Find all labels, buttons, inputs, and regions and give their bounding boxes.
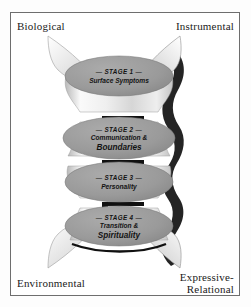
axis-label-environmental: Environmental	[17, 277, 85, 289]
stage-1-line-1: Surface Symptoms	[89, 77, 149, 85]
stage-disc-4[interactable]: — STAGE 4 — Transition & Spirituality	[65, 206, 173, 246]
stage-4-line-2: Spirituality	[98, 231, 141, 240]
stage-disc-2[interactable]: — STAGE 2 — Communication & Boundaries	[63, 117, 175, 159]
stage-4-line-1: Transition &	[100, 222, 139, 229]
stage-disc-3[interactable]: — STAGE 3 — Personality	[65, 162, 173, 202]
stage-spindle-diagram: — STAGE 1 — Surface Symptoms — STAGE 2 —…	[28, 30, 223, 275]
stage-4-heading: — STAGE 4 —	[95, 214, 143, 221]
stage-2-line-1: Communication &	[91, 134, 148, 141]
stage-1-heading: — STAGE 1 —	[95, 68, 143, 75]
stage-2-heading: — STAGE 2 —	[95, 126, 143, 133]
figure-page: Biological Instrumental Environmental Ex…	[0, 0, 251, 307]
stage-3-heading: — STAGE 3 —	[95, 174, 143, 181]
stage-3-line-1: Personality	[101, 183, 137, 191]
stage-disc-1[interactable]: — STAGE 1 — Surface Symptoms	[65, 56, 173, 96]
stage-2-line-2: Boundaries	[96, 143, 141, 152]
